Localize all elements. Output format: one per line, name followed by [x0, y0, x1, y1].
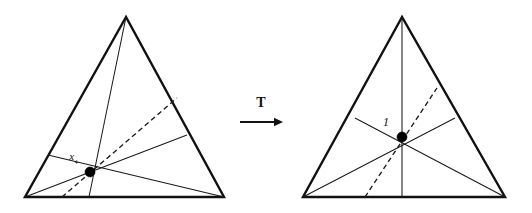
image-concurrency-point — [397, 132, 407, 142]
image-triangle-outline — [303, 17, 505, 197]
image-triangle-group: 1 — [303, 17, 505, 197]
source-triangle-outline — [25, 17, 224, 197]
transformation-arrow-group: T — [240, 95, 283, 126]
image-point-label: 1 — [383, 115, 389, 129]
figure-canvas: x+ T 1 — [0, 0, 532, 213]
figure-root: x+ T 1 — [0, 0, 532, 213]
source-triangle-group: x+ — [25, 17, 224, 197]
source-concurrency-point — [85, 167, 95, 177]
transformation-operator-label: T — [256, 95, 266, 110]
arrow-head-icon — [274, 118, 283, 126]
